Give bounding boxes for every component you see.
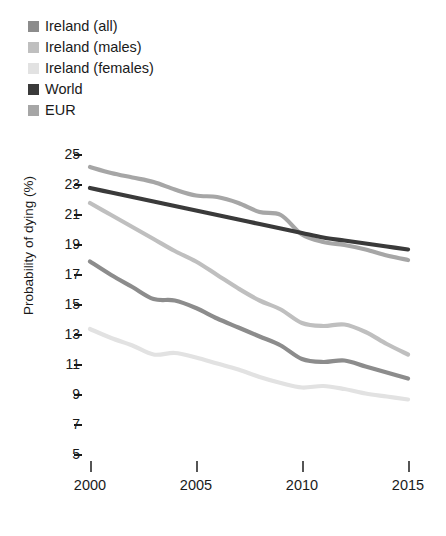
series-line-ireland-all [90, 262, 408, 379]
chart-figure: Ireland (all) Ireland (males) Ireland (f… [0, 0, 446, 536]
y-tick-mark-25 [74, 154, 82, 156]
y-tick-mark-13 [74, 334, 82, 336]
y-tick-mark-17 [74, 274, 82, 276]
x-tick-mark-2005 [196, 461, 198, 472]
y-tick-mark-15 [74, 304, 82, 306]
y-tick-mark-23 [74, 184, 82, 186]
x-tick-label-2000: 2000 [74, 477, 106, 493]
y-tick-mark-9 [74, 394, 82, 396]
y-axis-ticks: 2523211917151311975 [24, 0, 80, 536]
y-tick-mark-5 [74, 454, 82, 456]
y-tick-mark-19 [74, 244, 82, 246]
x-tick-mark-2015 [408, 461, 410, 472]
series-line-eur [90, 167, 408, 260]
x-tick-label-2010: 2010 [286, 477, 318, 493]
x-tick-label-2005: 2005 [180, 477, 212, 493]
chart-plot-area: Probability of dying (%) 252321191715131… [0, 0, 446, 536]
x-tick-label-2015: 2015 [392, 477, 424, 493]
x-tick-mark-2000 [90, 461, 92, 472]
y-tick-mark-21 [74, 214, 82, 216]
y-tick-mark-7 [74, 424, 82, 426]
series-line-world [90, 188, 408, 250]
y-tick-mark-11 [74, 364, 82, 366]
x-tick-mark-2010 [302, 461, 304, 472]
